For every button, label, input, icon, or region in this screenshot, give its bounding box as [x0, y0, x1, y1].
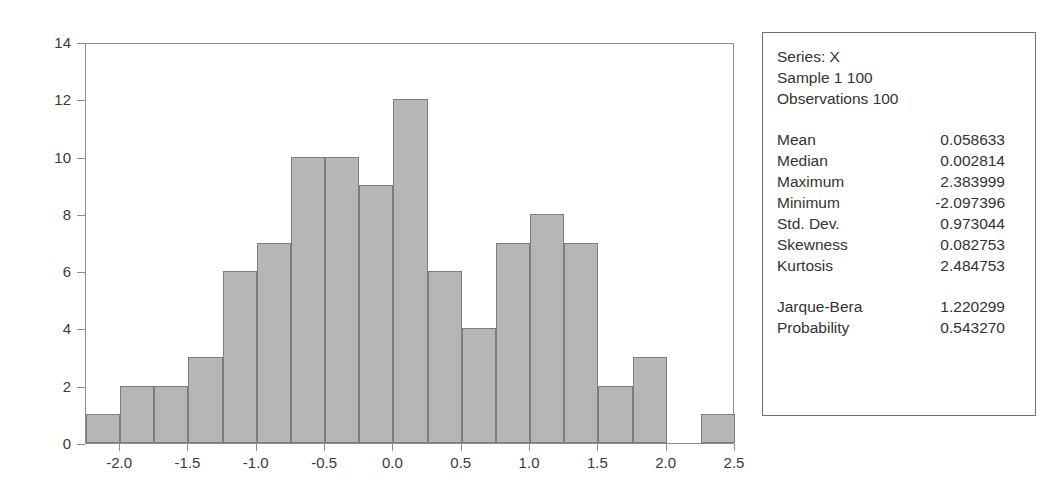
x-axis-tick-label: 0.0: [382, 454, 403, 472]
y-axis-tick-label: 2: [63, 378, 71, 395]
x-axis-tick-mark: [529, 444, 530, 451]
stat-label: Probability: [777, 317, 899, 338]
stat-label: Kurtosis: [777, 255, 899, 276]
y-axis-tick-label: 10: [54, 149, 71, 166]
stat-value: 0.058633: [899, 129, 1021, 150]
stat-label: Std. Dev.: [777, 213, 899, 234]
statistic-row: Minimum-2.097396: [777, 192, 1021, 213]
x-axis-tick-mark: [324, 444, 325, 451]
plot-frame: [85, 43, 734, 444]
stat-value: 0.082753: [899, 234, 1021, 255]
x-axis-tick-mark: [734, 444, 735, 451]
x-axis-tick-mark: [597, 444, 598, 451]
x-axis-tick-mark: [461, 444, 462, 451]
histogram-bar: [325, 157, 359, 443]
histogram-chart-panel: 02468101214 -2.0-1.5-1.0-0.50.00.51.01.5…: [0, 0, 760, 489]
statistics-summary-box: Series: X Sample 1 100 Observations 100 …: [762, 32, 1036, 416]
stat-value: 0.002814: [899, 150, 1021, 171]
x-axis-tick-mark: [119, 444, 120, 451]
stat-value: 2.383999: [899, 171, 1021, 192]
stat-value: 1.220299: [899, 296, 1021, 317]
x-axis-tick-mark: [392, 444, 393, 451]
stat-label: Jarque-Bera: [777, 296, 899, 317]
sample-range-line: Sample 1 100: [777, 67, 1021, 88]
stats-table-spacer: [777, 276, 1021, 296]
x-axis-tick-mark: [187, 444, 188, 451]
histogram-bar: [428, 271, 462, 443]
histogram-bar: [359, 185, 393, 443]
stat-label: Maximum: [777, 171, 899, 192]
histogram-bar: [154, 386, 188, 443]
histogram-bar: [223, 271, 257, 443]
statistic-row: Median0.002814: [777, 150, 1021, 171]
stat-label: Mean: [777, 129, 899, 150]
observations-line: Observations 100: [777, 88, 1021, 109]
statistic-row: Kurtosis2.484753: [777, 255, 1021, 276]
statistics-table: Mean0.058633Median0.002814Maximum2.38399…: [777, 129, 1021, 338]
y-axis-tick-mark: [77, 272, 85, 273]
stat-label: Skewness: [777, 234, 899, 255]
stat-value: -2.097396: [899, 192, 1021, 213]
x-axis-tick-label: 2.0: [655, 454, 676, 472]
statistic-row: Mean0.058633: [777, 129, 1021, 150]
y-axis-tick-label: 4: [63, 320, 71, 337]
x-axis-tick-label: -2.0: [106, 454, 132, 472]
statistic-row: Skewness0.082753: [777, 234, 1021, 255]
y-axis-tick-label: 12: [54, 91, 71, 108]
histogram-bar: [701, 414, 735, 443]
y-axis-tick-label: 14: [54, 34, 71, 51]
test-statistic-row: Probability0.543270: [777, 317, 1021, 338]
histogram-bar: [462, 328, 496, 443]
series-name-line: Series: X: [777, 46, 1021, 67]
test-statistic-row: Jarque-Bera1.220299: [777, 296, 1021, 317]
x-axis-tick-label: 0.5: [450, 454, 471, 472]
y-axis-tick-mark: [77, 43, 85, 44]
x-axis-tick-mark: [666, 444, 667, 451]
y-axis: 02468101214: [0, 0, 85, 489]
statistic-row: Maximum2.383999: [777, 171, 1021, 192]
stat-value: 0.543270: [899, 317, 1021, 338]
y-axis-tick-mark: [77, 329, 85, 330]
x-axis-tick-label: -0.5: [311, 454, 337, 472]
histogram-bar: [633, 357, 667, 443]
y-axis-tick-label: 6: [63, 263, 71, 280]
spacer-cell: [777, 276, 1021, 296]
x-axis-tick-label: 2.5: [724, 454, 745, 472]
histogram-bar: [120, 386, 154, 443]
stat-value: 2.484753: [899, 255, 1021, 276]
x-axis-tick-mark: [256, 444, 257, 451]
y-axis-tick-label: 8: [63, 206, 71, 223]
histogram-bar: [291, 157, 325, 443]
histogram-bar: [530, 214, 564, 443]
stat-value: 0.973044: [899, 213, 1021, 234]
x-axis: -2.0-1.5-1.0-0.50.00.51.01.52.02.5: [0, 444, 760, 489]
statistic-row: Std. Dev.0.973044: [777, 213, 1021, 234]
histogram-bar: [393, 99, 427, 443]
x-axis-tick-label: -1.5: [175, 454, 201, 472]
x-axis-tick-label: 1.5: [587, 454, 608, 472]
histogram-bar: [257, 243, 291, 444]
histogram-bar: [496, 243, 530, 444]
y-axis-tick-mark: [77, 215, 85, 216]
histogram-bar: [86, 414, 120, 443]
histogram-bar: [564, 243, 598, 444]
y-axis-tick-mark: [77, 100, 85, 101]
histogram-bar: [598, 386, 632, 443]
stat-label: Minimum: [777, 192, 899, 213]
histogram-bars: [86, 44, 733, 443]
histogram-bar: [188, 357, 222, 443]
y-axis-tick-mark: [77, 387, 85, 388]
x-axis-tick-label: 1.0: [519, 454, 540, 472]
x-axis-tick-label: -1.0: [243, 454, 269, 472]
y-axis-tick-mark: [77, 158, 85, 159]
stat-label: Median: [777, 150, 899, 171]
